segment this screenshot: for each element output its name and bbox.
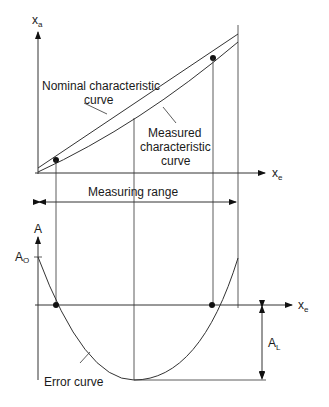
lower-chart: A xe AO Error curve AL [15,222,309,389]
measured-leader-line [163,107,176,123]
linearity-label: AL [268,336,281,352]
linearity-arrowhead-top [259,305,265,313]
error-curve [38,257,238,380]
upper-chart: xa xe Nominal characteristic curve Measu… [32,13,283,182]
characteristic-curve-diagram: xa xe Nominal characteristic curve Measu… [0,0,329,407]
lower-x-axis-label: xe [298,298,309,314]
linearity-arrowhead-bottom [259,372,265,380]
offset-label: AO [15,250,29,265]
measuring-range-label: Measuring range [88,185,178,199]
lower-y-axis-label: A [34,222,42,236]
measured-curve-label-3: curve [161,154,191,168]
zero-crossing-dot-right [209,302,215,308]
upper-x-axis-label: xe [272,166,283,182]
measuring-range-arrowhead-left [38,199,46,205]
measured-curve-label-2: characteristic [140,140,211,154]
zero-crossing-dot-left [53,302,59,308]
measured-curve-label: Measured [148,126,201,140]
nominal-curve-label-2: curve [84,93,114,107]
error-curve-leader [80,352,90,363]
measuring-range: Measuring range [38,185,236,205]
upper-y-axis-label: xa [32,13,43,29]
nominal-curve-label: Nominal characteristic [42,79,160,93]
error-curve-label: Error curve [44,375,104,389]
